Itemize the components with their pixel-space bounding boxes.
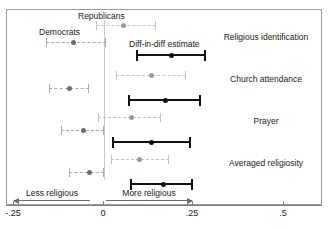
ci-diff-in-diff-church-attendance — [128, 95, 201, 106]
ci-diff-in-diff-religious-identification — [136, 50, 206, 61]
arrow-shaft — [106, 200, 192, 201]
x-tick-label: .5 — [279, 208, 287, 218]
ci-cap-low — [98, 113, 99, 122]
ci-republicans-church-attendance — [116, 71, 186, 80]
ci-cap-low — [112, 137, 114, 148]
ci-cap-low — [49, 84, 50, 93]
x-axis: -.25 0 .25 .5 — [6, 205, 322, 229]
ci-democrats-religious-identification — [46, 38, 106, 47]
ci-cap-high — [103, 126, 104, 135]
ci-cap-high — [160, 113, 161, 122]
ci-point-estimate — [149, 73, 154, 78]
direction-less-religious: Less religious — [14, 184, 90, 204]
ci-cap-high — [204, 50, 206, 61]
x-tick-label: -.25 — [5, 208, 21, 218]
ci-cap-low — [116, 71, 117, 80]
ci-cap-low — [128, 95, 130, 106]
tick-mark — [283, 201, 284, 205]
ci-point-estimate — [67, 86, 72, 91]
ci-point-estimate — [169, 53, 174, 58]
ci-cap-high — [88, 84, 89, 93]
ci-democrats-averaged-religiosity — [69, 168, 104, 177]
ci-cap-high — [105, 38, 106, 47]
ci-cap-high — [103, 168, 104, 177]
arrow-shaft — [14, 200, 90, 201]
ci-bar — [46, 42, 106, 43]
row-label-prayer: Prayer — [209, 116, 323, 126]
ci-point-estimate — [163, 98, 168, 103]
ci-cap-low — [61, 126, 62, 135]
row-label-religious-identification: Religious identification — [209, 32, 323, 42]
direction-less-religious-label: Less religious — [14, 188, 90, 198]
x-axis-line — [6, 205, 322, 206]
row-label-averaged-religiosity: Averaged religiosity — [209, 158, 323, 168]
x-tick-label: 0 — [100, 208, 105, 218]
tick-mark — [13, 201, 14, 205]
ci-cap-high — [155, 21, 156, 30]
ci-democrats-church-attendance — [49, 84, 89, 93]
ci-democrats-prayer — [61, 126, 104, 135]
plot-area: Republicans Democrats Diff-in-diff estim… — [6, 9, 322, 205]
ci-cap-low — [46, 38, 47, 47]
ci-cap-high — [199, 95, 201, 106]
direction-more-religious: More religious — [106, 184, 192, 204]
row-label-church-attendance: Church attendance — [209, 74, 323, 84]
ci-point-estimate — [71, 40, 76, 45]
annotation-diff-in-diff: Diff-in-diff estimate — [129, 39, 200, 49]
x-tick-label: .25 — [186, 208, 199, 218]
ci-point-estimate — [121, 23, 126, 28]
ci-point-estimate — [149, 140, 154, 145]
annotation-democrats: Democrats — [39, 27, 80, 37]
tick-mark — [103, 201, 104, 205]
ci-point-estimate — [81, 128, 86, 133]
ci-cap-high — [168, 155, 169, 164]
direction-more-religious-label: More religious — [106, 188, 192, 198]
coefficient-plot-figure: Republicans Democrats Diff-in-diff estim… — [0, 0, 331, 229]
ci-point-estimate — [87, 170, 92, 175]
ci-cap-low — [96, 21, 97, 30]
ci-diff-in-diff-prayer — [112, 137, 191, 148]
ci-republicans-religious-identification — [96, 21, 156, 30]
ci-point-estimate — [129, 115, 134, 120]
annotation-republicans: Republicans — [78, 11, 125, 21]
ci-cap-high — [185, 71, 186, 80]
ci-republicans-averaged-religiosity — [111, 155, 169, 164]
ci-cap-high — [189, 137, 191, 148]
ci-bar — [96, 25, 156, 26]
tick-mark — [192, 201, 193, 205]
ci-point-estimate — [137, 157, 142, 162]
ci-cap-low — [111, 155, 112, 164]
ci-cap-low — [69, 168, 70, 177]
ci-republicans-prayer — [98, 113, 161, 122]
ci-cap-low — [136, 50, 138, 61]
